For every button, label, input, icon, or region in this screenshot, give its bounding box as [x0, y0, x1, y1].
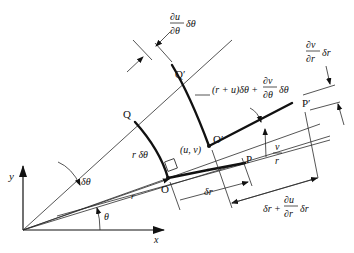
arrow-down	[326, 66, 330, 84]
r-dtheta-label: r δθ	[132, 149, 148, 160]
r-label: r	[131, 191, 135, 201]
du-dr-num: ∂u	[284, 194, 294, 205]
angle-arcs: θ δθ r	[58, 162, 135, 230]
label-Qprime: Q′	[175, 68, 185, 80]
y-axis-label: y	[8, 170, 14, 182]
dv-dtheta-num: ∂v	[263, 75, 273, 86]
dim-dv-dr: ∂v ∂r δr	[303, 39, 344, 125]
v-over-r-num: v	[275, 141, 280, 152]
dr-arrow	[180, 182, 248, 200]
ext-Pprime	[305, 112, 318, 178]
right-angle-marker	[165, 159, 178, 172]
label-Q: Q	[123, 108, 131, 120]
dv-dr-num: ∂v	[306, 39, 316, 50]
dv-dr-den: ∂r	[306, 53, 315, 64]
r-vector	[23, 179, 169, 230]
ext-top	[303, 85, 335, 95]
dim-du-dtheta: ∂u ∂θ δθ	[127, 11, 196, 72]
dv-dtheta-tail: δθ	[279, 84, 289, 95]
du-dtheta-den: ∂θ	[170, 25, 180, 36]
dr-plus-main: δr +	[263, 203, 281, 214]
deformed-element: Q′ O′ P′ (u, v)	[172, 65, 311, 170]
ext-O	[170, 182, 180, 210]
ext-line-2	[155, 43, 172, 62]
label-arc-prime: (r + u)δθ + ∂v ∂θ δθ	[195, 75, 289, 122]
arc-prime-main: (r + u)δθ +	[212, 84, 258, 96]
du-dtheta-tail: δθ	[186, 18, 196, 29]
dv-dr-tail: δr	[322, 47, 331, 58]
theta-arc	[97, 208, 100, 230]
label-O: O	[161, 183, 169, 195]
du-dr-tail: δr	[300, 203, 309, 214]
point-Oprime	[207, 144, 211, 148]
label-Oprime: O′	[213, 133, 223, 145]
dtheta-label: δθ	[81, 176, 91, 187]
arrow-in-2	[156, 32, 170, 46]
point-O	[166, 176, 170, 180]
dim-v-over-r: v r	[265, 129, 282, 166]
radial-line-dtheta	[23, 40, 232, 230]
label-Pprime: P′	[302, 97, 311, 109]
displacement-label: (u, v)	[180, 144, 202, 156]
dr-plus-arrow-right	[232, 178, 317, 203]
arrow-up	[338, 104, 344, 125]
dr-label: δr	[204, 186, 213, 197]
du-dtheta-num: ∂u	[170, 11, 180, 22]
dv-dtheta-den: ∂θ	[263, 89, 273, 100]
v-over-r-den: r	[275, 155, 279, 166]
v-over-r-arrow	[265, 129, 266, 157]
arrow-in-1	[127, 57, 143, 72]
x-axis-label: x	[153, 234, 159, 245]
du-dr-den: ∂r	[284, 208, 293, 219]
ext-bottom	[310, 102, 340, 110]
strain-diagram: y x θ δθ r Q O P r δθ Q′ O′ P′ (u, v)	[0, 0, 354, 253]
label-P: P	[246, 153, 252, 165]
theta-label: θ	[104, 211, 109, 222]
